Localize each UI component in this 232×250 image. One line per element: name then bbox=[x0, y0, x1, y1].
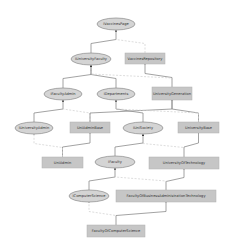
interface-node[interactable]: IUniversityFaculty bbox=[71, 53, 111, 65]
node-label: IFacultyAdmin bbox=[50, 92, 75, 96]
edge-n13-to-n10 bbox=[184, 133, 199, 157]
class-node[interactable]: FacultyOfComputerScience bbox=[87, 225, 145, 237]
node-label: VaccinesRepository bbox=[128, 57, 164, 61]
edge-n6-to-n2 bbox=[145, 64, 172, 87]
node-layer: IVaccinesPageVaccinesRepositoryIUniversi… bbox=[15, 18, 219, 237]
edge-n11-to-n8 bbox=[63, 133, 91, 157]
interface-node[interactable]: IFaculty bbox=[95, 156, 135, 168]
edge-n10-to-n6 bbox=[172, 100, 199, 122]
edge-n15-to-n12 bbox=[115, 168, 166, 190]
edge-n2-to-n1 bbox=[116, 30, 145, 53]
node-label: FacultyOfBusinessAdministrationTechnolog… bbox=[126, 194, 206, 198]
edge-n11-to-n7 bbox=[34, 134, 63, 157]
edge-n4-to-n3 bbox=[63, 65, 91, 88]
edge-n7-to-n4 bbox=[34, 100, 63, 122]
node-label: IUniversityAdmin bbox=[19, 126, 50, 130]
node-label: FacultyOfComputerScience bbox=[92, 229, 141, 233]
node-label: IDepartments bbox=[104, 92, 129, 96]
class-node[interactable]: VaccinesRepository bbox=[125, 53, 165, 64]
class-node[interactable]: UniversityGeneration bbox=[152, 87, 192, 100]
node-label: IFaculty bbox=[108, 160, 123, 164]
node-label: IUniversityFaculty bbox=[75, 57, 108, 61]
node-label: UniversityBase bbox=[185, 126, 213, 130]
node-label: UniAdmin bbox=[54, 161, 71, 165]
node-label: IComputerScience bbox=[73, 194, 107, 198]
class-node[interactable]: UniAdminBase bbox=[70, 122, 110, 133]
edge-n14-to-n12 bbox=[89, 168, 115, 190]
edge-n8-to-n4 bbox=[63, 100, 90, 122]
interface-node[interactable]: IFacultyAdmin bbox=[44, 88, 82, 100]
edge-n3-to-n1 bbox=[91, 30, 116, 53]
edge-n16-to-n14 bbox=[89, 202, 116, 225]
edge-n8-to-n6 bbox=[90, 100, 172, 122]
edge-n5-to-n3 bbox=[91, 65, 116, 88]
edge-n15-to-n13 bbox=[166, 169, 184, 190]
interface-node[interactable]: IUniSociety bbox=[123, 122, 163, 134]
interface-node[interactable]: IVaccinesPage bbox=[97, 18, 135, 30]
class-node[interactable]: UniversityBase bbox=[178, 122, 219, 133]
node-label: IUniSociety bbox=[133, 126, 154, 130]
node-label: UniAdminBase bbox=[77, 126, 104, 130]
edge-n12-to-n9 bbox=[115, 134, 143, 156]
edge-n13-to-n9 bbox=[143, 134, 184, 157]
class-diagram: IVaccinesPageVaccinesRepositoryIUniversi… bbox=[0, 0, 232, 250]
node-label: IVaccinesPage bbox=[103, 22, 129, 26]
class-node[interactable]: FacultyOfBusinessAdministrationTechnolog… bbox=[116, 190, 216, 202]
node-label: UniversityOfTechnology bbox=[163, 161, 206, 165]
class-node[interactable]: UniversityOfTechnology bbox=[149, 157, 219, 169]
edge-n16-to-n15 bbox=[116, 202, 166, 225]
interface-node[interactable]: IUniversityAdmin bbox=[15, 122, 53, 134]
node-label: UniversityGeneration bbox=[153, 92, 191, 96]
interface-node[interactable]: IDepartments bbox=[97, 88, 135, 100]
interface-node[interactable]: IComputerScience bbox=[69, 190, 109, 202]
class-node[interactable]: UniAdmin bbox=[42, 157, 83, 168]
